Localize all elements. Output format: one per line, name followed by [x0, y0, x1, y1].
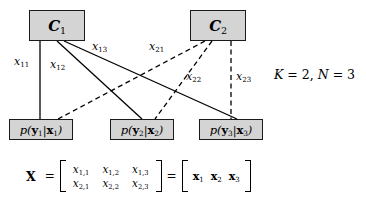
- matrix-cell-r2c1: x2,1: [73, 177, 90, 189]
- edge-label-x22: x22: [186, 70, 201, 83]
- edge-x21: [58, 41, 205, 119]
- vector-body: x1 x2 x3: [188, 166, 245, 187]
- edge-label-x13: x13: [92, 40, 107, 53]
- vector-cell-1: x1: [193, 170, 204, 183]
- matrix-equals-1: =: [45, 169, 55, 183]
- code-node-c2[interactable]: C2: [190, 10, 246, 41]
- edge-label-x12: x12: [50, 58, 65, 71]
- matrix-body: x1,1 x1,2 x1,3 x2,1 x2,2 x2,3: [66, 160, 156, 192]
- matrix-cell-r2c2: x2,2: [102, 177, 119, 189]
- matrix-cell-r1c3: x1,3: [132, 163, 149, 175]
- code-node-c1[interactable]: C1: [29, 10, 85, 41]
- matrix-cell-r1c2: x1,2: [102, 163, 119, 175]
- channel-node-2[interactable]: p(y2|x2): [110, 119, 174, 140]
- vector-bracket-right: [245, 160, 251, 192]
- channel-node-3[interactable]: p(y3|x3): [199, 119, 263, 140]
- matrix-bracket-right: [156, 160, 162, 192]
- matrix-cell-r2c3: x2,3: [132, 177, 149, 189]
- edge-label-x23: x23: [236, 70, 251, 83]
- matrix-equation: X = x1,1 x1,2 x1,3 x2,1 x2,2 x2,3 = x1 x…: [26, 160, 251, 192]
- vector-cell-2: x2: [211, 170, 222, 183]
- matrix-equals-2: =: [167, 169, 177, 183]
- edge-label-x11: x11: [14, 55, 29, 68]
- channel-node-2-label: p(y2|x2): [121, 123, 163, 137]
- channel-node-3-label: p(y3|x3): [210, 123, 252, 137]
- parameters-label: K = 2, N = 3: [274, 67, 355, 82]
- matrix-cell-r1c1: x1,1: [73, 163, 90, 175]
- code-node-c1-label: C1: [48, 17, 65, 35]
- channel-node-1[interactable]: p(y1|x1): [9, 119, 73, 140]
- matrix-lhs-symbol: X: [26, 169, 36, 184]
- channel-node-1-label: p(y1|x1): [20, 123, 62, 137]
- figure-canvas: C1 C2 p(y1|x1) p(y2|x2) p(y3|x3) x11 x12…: [0, 0, 366, 210]
- edge-label-x21: x21: [149, 40, 164, 53]
- vector-cell-3: x3: [229, 170, 240, 183]
- code-node-c2-label: C2: [209, 17, 226, 35]
